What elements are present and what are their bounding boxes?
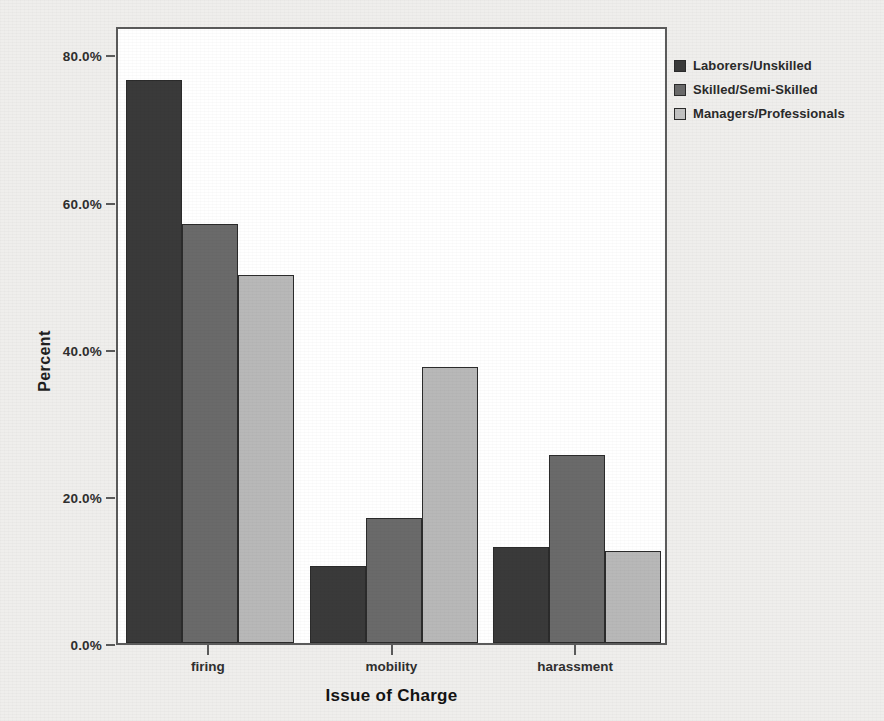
x-tick-mark-firing (207, 645, 209, 655)
y-axis-title: Percent (36, 330, 54, 392)
legend-item-label: Managers/Professionals (693, 106, 845, 121)
x-tick-label-mobility: mobility (366, 659, 418, 674)
y-tick-mark-0 (106, 644, 115, 646)
legend-swatch-icon (674, 60, 686, 72)
bar-harassment-managers-professionals (605, 551, 661, 643)
legend-item-laborers-unskilled: Laborers/Unskilled (674, 58, 845, 73)
legend-swatch-icon (674, 84, 686, 96)
bar-mobility-skilled-semi-skilled (366, 518, 422, 643)
y-tick-mark-20 (106, 497, 115, 499)
plot-area (116, 27, 667, 645)
y-tick-mark-40 (106, 350, 115, 352)
legend-item-label: Laborers/Unskilled (693, 58, 812, 73)
legend-item-managers-professionals: Managers/Professionals (674, 106, 845, 121)
bar-mobility-laborers-unskilled (310, 566, 366, 643)
x-tick-mark-mobility (391, 645, 393, 655)
y-tick-label-60: 60.0% (63, 196, 102, 211)
y-tick-mark-80 (106, 55, 115, 57)
chart-legend: Laborers/UnskilledSkilled/Semi-SkilledMa… (674, 58, 845, 121)
bar-chart-figure: 0.0%20.0%40.0%60.0%80.0% Percent firingm… (0, 0, 884, 721)
bar-firing-laborers-unskilled (126, 80, 182, 643)
legend-item-label: Skilled/Semi-Skilled (693, 82, 818, 97)
bar-firing-skilled-semi-skilled (182, 224, 238, 643)
bar-harassment-skilled-semi-skilled (549, 455, 605, 643)
bars-layer (118, 29, 665, 643)
y-tick-label-0: 0.0% (70, 638, 102, 653)
bar-harassment-laborers-unskilled (493, 547, 549, 643)
x-tick-label-harassment: harassment (537, 659, 613, 674)
y-tick-label-40: 40.0% (63, 343, 102, 358)
legend-item-skilled-semi-skilled: Skilled/Semi-Skilled (674, 82, 845, 97)
x-tick-mark-harassment (574, 645, 576, 655)
x-axis-title: Issue of Charge (116, 686, 667, 706)
y-tick-label-20: 20.0% (63, 490, 102, 505)
y-tick-mark-60 (106, 203, 115, 205)
x-tick-label-firing: firing (191, 659, 225, 674)
y-tick-label-80: 80.0% (63, 49, 102, 64)
legend-swatch-icon (674, 108, 686, 120)
bar-firing-managers-professionals (238, 275, 294, 643)
bar-mobility-managers-professionals (422, 367, 478, 643)
